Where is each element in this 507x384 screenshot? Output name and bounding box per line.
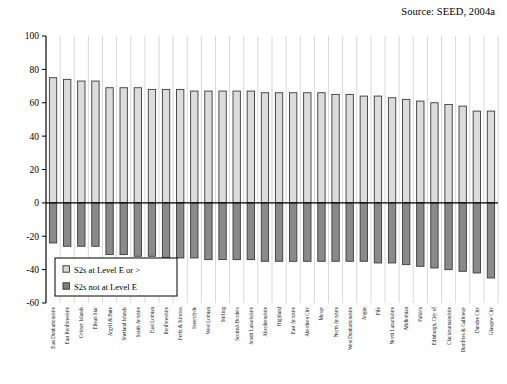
bar-negative bbox=[374, 203, 381, 263]
x-axis-label: Moray bbox=[318, 307, 324, 321]
x-axis-label: East Dunbartonshire bbox=[50, 306, 56, 348]
bar-negative bbox=[290, 203, 297, 261]
legend-swatch bbox=[63, 283, 69, 289]
y-axis-label: 40 bbox=[30, 132, 40, 142]
bar-negative bbox=[487, 203, 494, 278]
bar-negative bbox=[304, 203, 311, 261]
chart-container: Source: SEED, 2004a 100806040200-20-40-6… bbox=[0, 0, 507, 384]
bar-negative bbox=[162, 203, 169, 258]
bar-positive bbox=[247, 91, 254, 203]
bar-negative bbox=[459, 203, 466, 271]
bar-positive bbox=[431, 103, 438, 203]
x-axis-label: Argyll & Bute bbox=[107, 306, 113, 336]
bar-positive bbox=[388, 98, 395, 203]
y-axis-label: -40 bbox=[26, 265, 39, 275]
bar-negative bbox=[275, 203, 282, 261]
bar-negative bbox=[388, 203, 395, 263]
x-axis-label: Perth & Kinross bbox=[177, 307, 183, 340]
x-axis-label: Clackmannanshire bbox=[446, 306, 452, 345]
legend-label: S2s at Level E or > bbox=[74, 265, 140, 275]
bar-positive bbox=[403, 99, 410, 202]
x-axis-label: West Dunbartonshire bbox=[347, 306, 353, 350]
bar-positive bbox=[374, 96, 381, 203]
y-axis-label: 20 bbox=[30, 165, 40, 175]
bar-positive bbox=[261, 93, 268, 203]
x-axis-label: Angus bbox=[361, 307, 367, 320]
bar-negative bbox=[261, 203, 268, 261]
bar-negative bbox=[431, 203, 438, 268]
bar-positive bbox=[459, 106, 466, 203]
bar-positive bbox=[275, 93, 282, 203]
bar-positive bbox=[290, 93, 297, 203]
x-axis-label: Shetland Islands bbox=[121, 307, 127, 341]
y-axis-label: 80 bbox=[30, 65, 40, 75]
bar-positive bbox=[233, 91, 240, 203]
bar-positive bbox=[473, 111, 480, 203]
y-axis-label: -20 bbox=[26, 232, 39, 242]
legend-label: S2s not at Level E bbox=[74, 282, 137, 292]
bar-positive bbox=[417, 101, 424, 203]
x-axis-label: South Lanarkshire bbox=[248, 306, 254, 344]
x-axis-label: Orkney Islands bbox=[78, 307, 84, 338]
bar-positive bbox=[191, 91, 198, 203]
bar-negative bbox=[233, 203, 240, 260]
bar-negative bbox=[219, 203, 226, 260]
bar-positive bbox=[318, 93, 325, 203]
bar-positive bbox=[487, 111, 494, 203]
x-axis-label: Scottish Borders bbox=[234, 307, 240, 341]
x-axis-label: Falkirk bbox=[417, 307, 423, 322]
bar-positive bbox=[78, 81, 85, 203]
bar-negative bbox=[332, 203, 339, 261]
bar-positive bbox=[304, 93, 311, 203]
y-axis-label: 0 bbox=[34, 198, 39, 208]
x-axis-label: Renfrewshire bbox=[163, 306, 169, 334]
bar-positive bbox=[346, 94, 353, 202]
bar-positive bbox=[106, 88, 113, 203]
bar-negative bbox=[120, 203, 127, 255]
x-axis-label: South Ayrshire bbox=[135, 306, 141, 337]
x-axis-label: East Renfrewshire bbox=[64, 306, 70, 344]
bar-positive bbox=[49, 78, 56, 203]
x-axis-label: Glasgow City bbox=[488, 307, 494, 336]
bar-negative bbox=[346, 203, 353, 261]
bar-positive bbox=[177, 89, 184, 202]
x-axis-label: Dundee City bbox=[474, 307, 480, 333]
x-axis-label: Midlothian bbox=[403, 307, 409, 330]
x-axis-label: North Lanarkshire bbox=[389, 306, 395, 344]
x-axis-label: Edinburgh, City of bbox=[431, 307, 437, 346]
y-axis-label: 100 bbox=[25, 31, 40, 41]
bar-negative bbox=[64, 203, 71, 246]
bar-negative bbox=[403, 203, 410, 265]
legend-swatch bbox=[63, 266, 69, 272]
x-axis-label: Highland bbox=[276, 307, 282, 326]
bar-negative bbox=[205, 203, 212, 260]
bar-negative bbox=[148, 203, 155, 256]
bar-negative bbox=[106, 203, 113, 255]
bar-negative bbox=[360, 203, 367, 261]
x-axis-label: Aberdeenshire bbox=[262, 306, 268, 336]
x-axis-label: North Ayrshire bbox=[333, 306, 339, 337]
bar-negative bbox=[417, 203, 424, 266]
bar-chart: 100806040200-20-40-60East Dunbartonshire… bbox=[0, 0, 507, 384]
y-axis-label: -60 bbox=[26, 298, 39, 308]
bar-positive bbox=[120, 88, 127, 203]
bar-negative bbox=[445, 203, 452, 270]
bar-negative bbox=[473, 203, 480, 273]
bar-negative bbox=[191, 203, 198, 258]
x-axis-label: Eilean Siar bbox=[92, 307, 98, 330]
bar-positive bbox=[148, 89, 155, 202]
x-axis-label: Aberdeen City bbox=[304, 307, 310, 337]
x-axis-label: West Lothian bbox=[205, 307, 211, 335]
bar-negative bbox=[247, 203, 254, 260]
x-axis-label: Fife bbox=[375, 306, 381, 315]
bar-positive bbox=[332, 94, 339, 202]
x-axis-label: Stirling bbox=[220, 307, 226, 323]
bar-positive bbox=[162, 89, 169, 202]
bar-negative bbox=[134, 203, 141, 256]
bar-positive bbox=[219, 91, 226, 203]
bar-negative bbox=[78, 203, 85, 246]
bar-positive bbox=[134, 88, 141, 203]
x-axis-label: East Lothian bbox=[149, 307, 155, 333]
y-axis-label: 60 bbox=[30, 98, 40, 108]
bar-positive bbox=[205, 91, 212, 203]
